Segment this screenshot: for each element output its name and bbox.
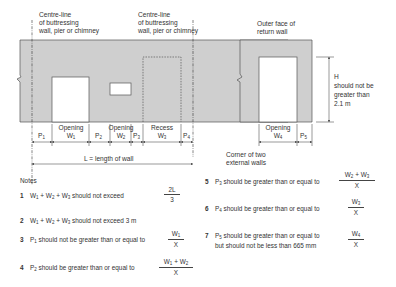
dim-p3: P3 xyxy=(133,132,140,142)
dim-w1: OpeningW1 xyxy=(57,124,85,142)
label-height-note: H should not be greater than 2.1 m xyxy=(334,72,374,108)
note-1-fraction: 2L3 xyxy=(164,186,180,203)
note-6-fraction: W3X xyxy=(348,198,364,216)
note-4-fraction: W1 + W2X xyxy=(159,258,193,276)
label-corner-note: Corner of two external walls xyxy=(226,151,266,167)
dim-length: L = length of wall xyxy=(84,155,133,163)
label-outer-face: Outer face of return wall xyxy=(257,20,295,36)
window-w2 xyxy=(110,83,131,95)
note-6: 6P4 should be greater than or equal to xyxy=(205,205,320,215)
note-3-fraction: W1X xyxy=(168,230,184,248)
note-5-fraction: W2 + W3X xyxy=(339,171,375,189)
dim-p2: P2 xyxy=(95,132,102,142)
dim-w4: OpeningW4 xyxy=(263,124,293,142)
dim-p5: P5 xyxy=(300,132,307,142)
label-centre-line-right: Centre-line of buttressing wall, pier or… xyxy=(138,11,198,35)
dim-w2: OpeningW2 xyxy=(106,124,136,142)
notes-title: Notes xyxy=(20,177,37,185)
opening-w4 xyxy=(259,57,297,122)
opening-w1 xyxy=(52,77,89,122)
note-7-fraction: W4X xyxy=(348,230,364,248)
note-5: 5P3 should be greater than or equal to xyxy=(205,178,320,188)
note-1: 1W1 + W2 + W3 should not exceed xyxy=(20,192,124,202)
note-7: 7P5 should be greater than or equal to b… xyxy=(205,232,320,250)
dim-p1: P1 xyxy=(38,132,45,142)
dim-p4: P4 xyxy=(183,132,190,142)
note-2: 2W1 + W2 + W3 should not exceed 3 m xyxy=(20,217,136,227)
note-4: 4P2 should be greater than or equal to xyxy=(20,264,135,274)
note-3: 3P1 should not be greater than or equal … xyxy=(20,236,145,246)
label-centre-line-left: Centre-line of buttressing wall, pier or… xyxy=(39,11,99,35)
dim-w3: RecessW3 xyxy=(148,124,176,142)
